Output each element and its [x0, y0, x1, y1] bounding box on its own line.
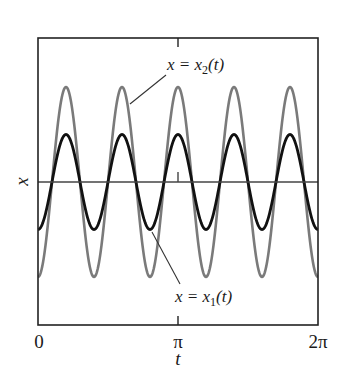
annotation-x2-label: x = x2(t): [167, 56, 224, 76]
annotation-x1-suffix: (t): [216, 287, 232, 306]
x-tick-0: 0: [34, 332, 44, 351]
annotation-x1-label: x = x1(t): [175, 288, 232, 308]
annotation-leader-x2: [130, 75, 166, 104]
y-axis-label: x: [12, 177, 31, 185]
annotation-x2-text: x = x: [167, 55, 202, 74]
annotation-x2-suffix: (t): [208, 55, 224, 74]
annotation-x1-text: x = x: [175, 287, 210, 306]
x-tick-2pi: 2π: [308, 332, 327, 351]
x-axis-label: t: [175, 349, 180, 368]
